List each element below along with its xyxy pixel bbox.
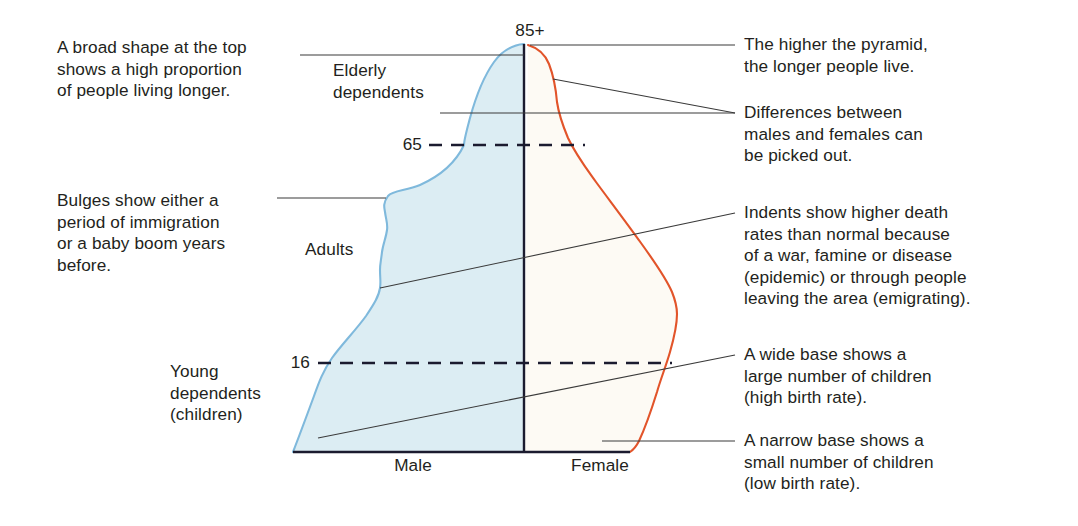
annotation-indents: Indents show higher death rates than nor… xyxy=(744,202,1064,310)
annotation-wide-base: A wide base shows a large number of chil… xyxy=(744,344,1054,409)
annotation-broad-top: A broad shape at the top shows a high pr… xyxy=(57,37,307,102)
annotation-bulges: Bulges show either a period of immigrati… xyxy=(57,190,297,276)
region-label-adults: Adults xyxy=(305,239,415,261)
annotation-differences: Differences between males and females ca… xyxy=(744,102,1054,167)
region-label-elderly-dependents: Elderly dependents xyxy=(333,60,483,103)
axis-label-65: 65 xyxy=(370,134,422,155)
leader-differences-upper xyxy=(553,79,735,113)
annotation-higher-pyramid: The higher the pyramid, the longer peopl… xyxy=(744,34,1054,77)
female-population-area xyxy=(524,45,677,452)
annotation-narrow-base: A narrow base shows a small number of ch… xyxy=(744,430,1054,495)
axis-label-85plus: 85+ xyxy=(495,20,565,41)
diagram-canvas: 85+ 65 16 Male Female Elderly dependents… xyxy=(0,0,1078,526)
region-label-young-dependents: Young dependents (children) xyxy=(170,361,320,426)
axis-label-female: Female xyxy=(550,455,650,476)
axis-label-male: Male xyxy=(363,455,463,476)
